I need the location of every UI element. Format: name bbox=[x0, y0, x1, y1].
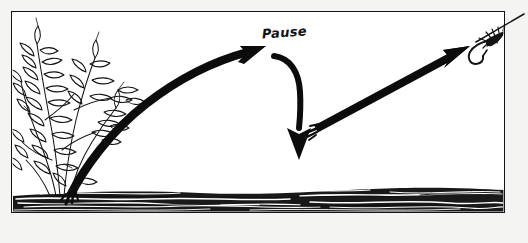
illustration-page: Fishing lure retrieve diagram bbox=[0, 0, 528, 243]
pause-label: Pause bbox=[262, 23, 308, 41]
illustration-title: Fishing lure retrieve diagram bbox=[0, 0, 1, 1]
panel-border bbox=[11, 11, 505, 213]
